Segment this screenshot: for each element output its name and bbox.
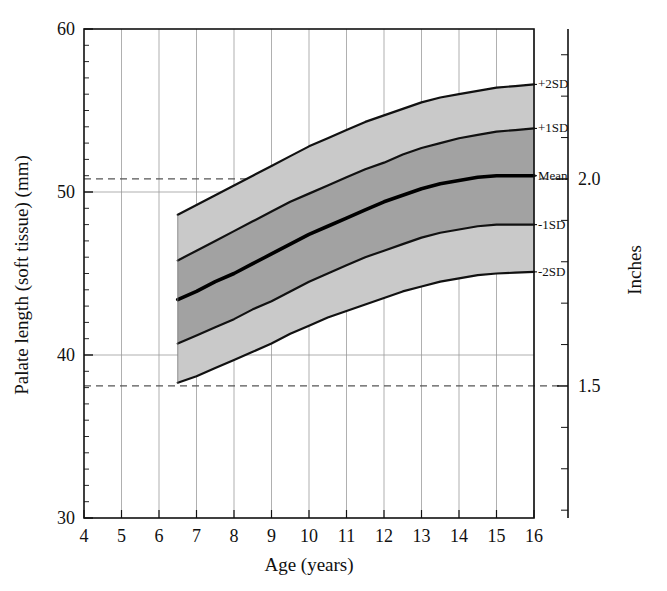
growth-chart-figure: 30405060456789101112131415162.01.5+2SD+1… xyxy=(0,0,667,591)
x-axis-tick-label: 15 xyxy=(488,526,506,546)
x-axis-tick-label: 7 xyxy=(192,526,201,546)
y-axis-tick-label: 60 xyxy=(57,19,75,39)
chart-generated-content: 30405060456789101112131415162.01.5+2SD+1… xyxy=(57,19,601,546)
x-axis-tick-label: 5 xyxy=(117,526,126,546)
secondary-y-axis-title: Inches xyxy=(624,245,645,295)
y-axis-tick-label: 50 xyxy=(57,182,75,202)
x-axis-tick-label: 12 xyxy=(375,526,393,546)
chart-canvas: 30405060456789101112131415162.01.5+2SD+1… xyxy=(0,0,667,591)
annotation-minus-2sd-label: -2SD xyxy=(538,264,565,279)
x-axis-tick-label: 6 xyxy=(155,526,164,546)
y-axis-tick-label: 30 xyxy=(57,508,75,528)
annotation-minus-1sd-label: -1SD xyxy=(538,217,565,232)
x-axis-tick-label: 10 xyxy=(300,526,318,546)
annotation-plus-1sd-label: +1SD xyxy=(538,120,568,135)
x-axis-tick-label: 14 xyxy=(450,526,468,546)
y2-axis-tick-label: 2.0 xyxy=(578,169,601,189)
x-axis-tick-label: 16 xyxy=(525,526,543,546)
x-axis-tick-label: 4 xyxy=(80,526,89,546)
y-axis-tick-label: 40 xyxy=(57,345,75,365)
annotation-mean-label: Mean xyxy=(538,168,568,183)
x-axis-tick-label: 9 xyxy=(267,526,276,546)
y-axis-title: Palate length (soft tissue) (mm) xyxy=(11,155,33,395)
x-axis-tick-label: 8 xyxy=(230,526,239,546)
x-axis-tick-label: 13 xyxy=(413,526,431,546)
x-axis-title: Age (years) xyxy=(264,554,353,576)
y2-axis-tick-label: 1.5 xyxy=(578,376,601,396)
annotation-plus-2sd-label: +2SD xyxy=(538,76,568,91)
x-axis-tick-label: 11 xyxy=(338,526,355,546)
